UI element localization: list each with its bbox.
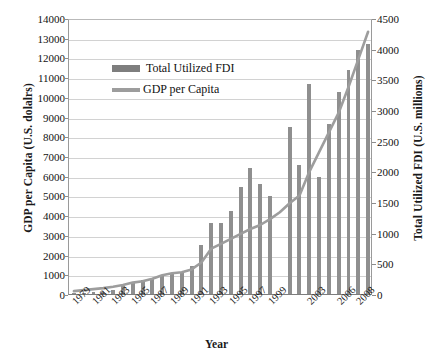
y-axis-left-tick-label: 0 (5, 290, 65, 301)
y-axis-left-tickmark (64, 216, 68, 217)
y-axis-right-tickmark (372, 142, 376, 143)
y-axis-left-tickmark (64, 118, 68, 119)
y-axis-left-tick-label: 12000 (5, 53, 65, 64)
y-axis-left-tickmark (64, 157, 68, 158)
legend: Total Utilized FDI GDP per Capita (112, 58, 234, 100)
clipped-header-text (0, 0, 433, 9)
y-axis-right-tick-label: 500 (377, 259, 429, 270)
y-axis-right-tick-label: 1000 (377, 229, 429, 240)
y-axis-left-tick-label: 11000 (5, 73, 65, 84)
legend-swatch-bar-icon (112, 65, 140, 72)
y-axis-right-tick-label: 4000 (377, 45, 429, 56)
y-axis-right-tick-label: 3000 (377, 106, 429, 117)
y-axis-left-tick-label: 10000 (5, 93, 65, 104)
y-axis-right-tickmark (372, 111, 376, 112)
y-axis-left-tick-label: 9000 (5, 113, 65, 124)
y-axis-left-tickmark (64, 137, 68, 138)
y-axis-right-tick-label: 1500 (377, 198, 429, 209)
y-axis-left-tickmark (64, 275, 68, 276)
y-axis-right-tick-label: 2500 (377, 137, 429, 148)
y-axis-left-tick-label: 14000 (5, 14, 65, 25)
y-axis-right-tick-label: 0 (377, 290, 429, 301)
legend-item-gdp-per-capita: GDP per Capita (112, 79, 234, 100)
y-axis-left-tickmark (64, 177, 68, 178)
y-axis-left-tickmark (64, 256, 68, 257)
legend-label: Total Utilized FDI (146, 61, 234, 76)
y-axis-left-tickmark (64, 58, 68, 59)
y-axis-right-tickmark (372, 203, 376, 204)
legend-label: GDP per Capita (143, 82, 219, 97)
y-axis-right-tickmark (372, 19, 376, 20)
legend-swatch-line-icon (112, 88, 140, 92)
y-axis-right-tick-label: 3500 (377, 75, 429, 86)
y-axis-left-tickmark (64, 196, 68, 197)
y-axis-right-title: Total Utilized FDI (U.S. millions) (412, 38, 424, 278)
y-axis-left-tickmark (64, 78, 68, 79)
y-axis-left-tick-label: 4000 (5, 211, 65, 222)
y-axis-left-tickmark (64, 39, 68, 40)
y-axis-right-tickmark (372, 172, 376, 173)
y-axis-left-tickmark (64, 98, 68, 99)
y-axis-left-tick-label: 3000 (5, 231, 65, 242)
y-axis-left-tick-label: 2000 (5, 251, 65, 262)
y-axis-right-tick-label: 2000 (377, 167, 429, 178)
y-axis-left-tick-label: 8000 (5, 132, 65, 143)
y-axis-right-tickmark (372, 80, 376, 81)
y-axis-left-tick-label: 5000 (5, 191, 65, 202)
y-axis-right-tick-label: 4500 (377, 14, 429, 25)
y-axis-left-tickmark (64, 236, 68, 237)
chart-figure: GDP per Capita (U.S. dolalrs) Total Util… (0, 0, 433, 360)
y-axis-left-tick-label: 7000 (5, 152, 65, 163)
legend-item-total-utilized-fdi: Total Utilized FDI (112, 58, 234, 79)
y-axis-right-tickmark (372, 264, 376, 265)
y-axis-left-tick-label: 13000 (5, 34, 65, 45)
y-axis-right-tickmark (372, 234, 376, 235)
y-axis-right-tickmark (372, 50, 376, 51)
y-axis-left-tick-label: 1000 (5, 270, 65, 281)
y-axis-left-tick-label: 6000 (5, 172, 65, 183)
y-axis-left-tickmark (64, 295, 68, 296)
x-axis-title: Year (0, 338, 433, 350)
y-axis-left-tickmark (64, 19, 68, 20)
